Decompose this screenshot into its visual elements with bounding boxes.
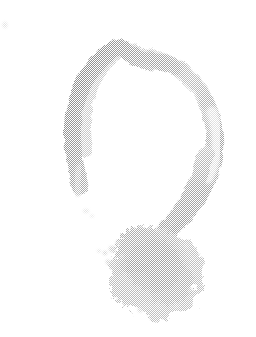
question-mark-illustration <box>0 0 256 337</box>
artwork-canvas: A large faded grey question mark: an ope… <box>0 0 256 337</box>
speck-top-left <box>2 22 7 28</box>
speck-mid-left <box>83 209 89 213</box>
